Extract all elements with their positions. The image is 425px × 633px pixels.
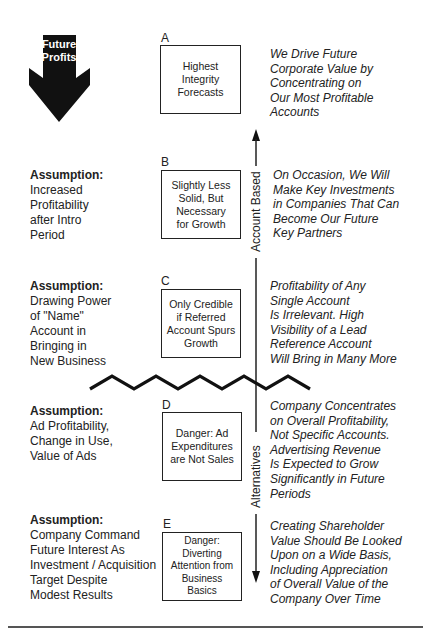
desc-line: Key Partners: [273, 226, 399, 241]
box-b: Slightly Less Solid, But Necessary for G…: [161, 170, 241, 239]
assumption-line: Future Interest As: [30, 543, 156, 558]
box-line: Danger: Ad: [170, 427, 234, 440]
arrow-label-line: Profits: [28, 51, 90, 64]
box-letter-c: C: [161, 275, 170, 287]
desc-line: Our Most Profitable: [270, 91, 373, 106]
desc-line: Creating Shareholder: [270, 519, 402, 534]
assumption-line: Drawing Power: [30, 294, 111, 309]
box-line: Business: [171, 573, 233, 586]
future-profits-label: Future Profits: [28, 38, 90, 64]
description-a: We Drive Future Corporate Value by Conce…: [270, 47, 373, 120]
assumption-title: Assumption:: [30, 513, 156, 528]
box-letter-b: B: [161, 156, 169, 168]
desc-line: Significantly in Future: [270, 472, 396, 487]
assumption-line: Account in: [30, 324, 111, 339]
assumption-c: Assumption: Drawing Power of "Name" Acco…: [30, 279, 111, 369]
assumption-line: Change in Use,: [30, 434, 113, 449]
desc-line: Company Over Time: [270, 592, 402, 607]
desc-line: Not Specific Accounts.: [270, 428, 396, 443]
desc-line: Reference Account: [270, 337, 397, 352]
desc-line: Is Expected to Grow: [270, 457, 396, 472]
assumption-b: Assumption: Increased Profitability afte…: [30, 168, 103, 243]
desc-line: Concentrating on: [270, 76, 373, 91]
description-d: Company Concentrates on Overall Profitab…: [270, 399, 396, 501]
box-line: if Referred: [167, 311, 235, 324]
assumption-line: New Business: [30, 354, 111, 369]
box-line: Necessary: [172, 205, 231, 218]
desc-line: Accounts: [270, 105, 373, 120]
desc-line: Become Our Future: [273, 212, 399, 227]
desc-line: Corporate Value by: [270, 62, 373, 77]
box-line: are Not Sales: [170, 453, 234, 466]
box-c: Only Credible if Referred Account Spurs …: [161, 289, 241, 358]
desc-line: Upon on a Wide Basis,: [270, 548, 402, 563]
axis-label-alternatives: Alternatives: [249, 445, 263, 508]
box-letter-e: E: [163, 518, 171, 530]
assumption-d: Assumption: Ad Profitability, Change in …: [30, 404, 113, 464]
assumption-line: Bringing in: [30, 339, 111, 354]
desc-line: Company Concentrates: [270, 399, 396, 414]
box-d: Danger: Ad Expenditures are Not Sales: [162, 412, 242, 481]
bottom-rule-divider: [8, 626, 423, 628]
assumption-line: of "Name": [30, 309, 111, 324]
desc-line: Make Key Investments: [273, 183, 399, 198]
box-line: Basics: [171, 585, 233, 598]
box-line: Solid, But: [172, 192, 231, 205]
desc-line: We Drive Future: [270, 47, 373, 62]
assumption-line: Profitability: [30, 198, 103, 213]
assumption-line: Ad Profitability,: [30, 419, 113, 434]
assumption-line: Modest Results: [30, 588, 156, 603]
box-line: Growth: [167, 337, 235, 350]
arrow-label-line: Future: [28, 38, 90, 51]
desc-line: in Companies That Can: [273, 197, 399, 212]
desc-line: Profitability of Any: [270, 279, 397, 294]
box-line: Highest: [177, 60, 223, 73]
desc-line: Including Appreciation: [270, 563, 402, 578]
assumption-line: Target Despite: [30, 573, 156, 588]
box-line: Integrity: [177, 73, 223, 86]
box-line: for Growth: [172, 218, 231, 231]
box-line: Only Credible: [167, 298, 235, 311]
box-letter-a: A: [161, 32, 169, 44]
desc-line: Visibility of a Lead: [270, 323, 397, 338]
desc-line: Value Should Be Looked: [270, 534, 402, 549]
assumption-line: Increased: [30, 183, 103, 198]
box-letter-d: D: [162, 399, 171, 411]
box-line: Account Spurs: [167, 324, 235, 337]
desc-line: Single Account: [270, 294, 397, 309]
box-line: Attention from: [171, 560, 233, 573]
desc-line: Advertising Revenue: [270, 443, 396, 458]
desc-line: Is Irrelevant. High: [270, 308, 397, 323]
assumption-title: Assumption:: [30, 279, 111, 294]
desc-line: of Overall Value of the: [270, 577, 402, 592]
desc-line: On Occasion, We Will: [273, 168, 399, 183]
desc-line: Periods: [270, 487, 396, 502]
assumption-line: Period: [30, 228, 103, 243]
box-e: Danger: Diverting Attention from Busines…: [162, 532, 242, 601]
assumption-e: Assumption: Company Command Future Inter…: [30, 513, 156, 603]
description-c: Profitability of Any Single Account Is I…: [270, 279, 397, 367]
desc-line: on Overall Profitability,: [270, 414, 396, 429]
assumption-title: Assumption:: [30, 168, 103, 183]
assumption-title: Assumption:: [30, 404, 113, 419]
assumption-line: Company Command: [30, 528, 156, 543]
assumption-line: after Intro: [30, 213, 103, 228]
assumption-line: Value of Ads: [30, 449, 113, 464]
box-line: Danger:: [171, 535, 233, 548]
description-e: Creating Shareholder Value Should Be Loo…: [270, 519, 402, 607]
assumption-line: Investment / Acquisition: [30, 558, 156, 573]
axis-label-account-based: Account Based: [249, 171, 263, 252]
box-line: Slightly Less: [172, 179, 231, 192]
box-a: Highest Integrity Forecasts: [160, 45, 241, 114]
desc-line: Will Bring in Many More: [270, 352, 397, 367]
box-line: Forecasts: [177, 86, 223, 99]
box-line: Diverting: [171, 548, 233, 561]
description-b: On Occasion, We Will Make Key Investment…: [273, 168, 399, 241]
box-line: Expenditures: [170, 440, 234, 453]
